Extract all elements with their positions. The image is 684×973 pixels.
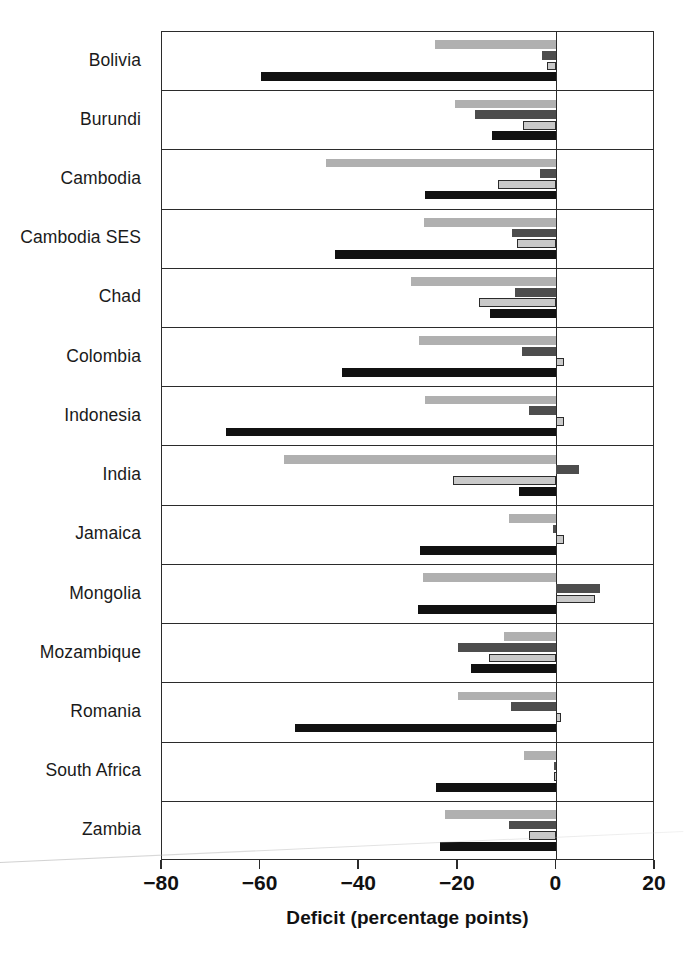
bar-series-3: [547, 62, 557, 71]
bar-series-4: [440, 842, 557, 851]
bar-series-1: [455, 100, 556, 109]
bar-series-3: [529, 831, 556, 840]
x-tick-label: −80: [131, 872, 191, 893]
x-tick: [357, 860, 359, 869]
category-label-row: Zambia: [0, 821, 151, 839]
bar-series-2: [554, 762, 557, 771]
bar-series-2: [475, 110, 556, 119]
bar-series-2: [540, 169, 557, 178]
bar-series-4: [418, 605, 556, 614]
x-tick: [259, 860, 261, 869]
bar-series-3: [479, 298, 557, 307]
row-band: [162, 624, 653, 683]
bar-series-1: [524, 751, 556, 760]
category-label-row: South Africa: [0, 762, 151, 780]
bar-series-4: [420, 546, 556, 555]
bar-series-2: [529, 406, 556, 415]
bar-series-2: [458, 643, 557, 652]
category-label-row: Bolivia: [0, 52, 151, 70]
bar-series-3: [489, 654, 556, 663]
category-label: Cambodia: [0, 170, 151, 188]
bar-series-4: [295, 724, 556, 733]
bar-series-2: [511, 702, 557, 711]
category-label-row: Romania: [0, 703, 151, 721]
row-band: [162, 802, 653, 861]
bar-series-4: [425, 191, 556, 200]
row-band: [162, 269, 653, 328]
category-label-row: India: [0, 466, 151, 484]
bar-series-1: [509, 514, 557, 523]
bar-series-1: [284, 455, 556, 464]
bar-series-2: [556, 465, 579, 474]
x-tick: [653, 860, 655, 869]
row-band: [162, 743, 653, 802]
bar-series-2: [522, 347, 556, 356]
bar-series-4: [490, 309, 556, 318]
category-label-row: Cambodia SES: [0, 229, 151, 247]
bar-series-2: [542, 51, 557, 60]
bar-series-4: [342, 368, 556, 377]
row-band: [162, 32, 653, 91]
bar-series-1: [425, 396, 556, 405]
category-label: Zambia: [0, 821, 151, 839]
category-label-row: Chad: [0, 288, 151, 306]
bar-series-4: [471, 664, 557, 673]
bar-series-4: [436, 783, 557, 792]
row-band: [162, 91, 653, 150]
x-tick: [160, 860, 162, 869]
bar-series-3: [523, 121, 557, 130]
bar-series-3: [498, 180, 556, 189]
bar-series-3: [554, 772, 557, 781]
bar-series-3: [453, 476, 557, 485]
category-label-row: Indonesia: [0, 407, 151, 425]
bar-series-2: [553, 525, 556, 534]
bar-series-3: [556, 358, 563, 367]
category-label: Mozambique: [0, 644, 151, 662]
category-label-row: Cambodia: [0, 170, 151, 188]
x-axis-title: Deficit (percentage points): [161, 907, 654, 929]
category-label-row: Burundi: [0, 111, 151, 129]
category-label-row: Jamaica: [0, 525, 151, 543]
x-tick-label: 20: [624, 872, 684, 893]
bar-series-1: [435, 40, 557, 49]
bar-series-4: [519, 487, 556, 496]
bar-series-2: [515, 288, 556, 297]
bar-series-3: [556, 535, 563, 544]
category-label: India: [0, 466, 151, 484]
category-label-row: Mongolia: [0, 585, 151, 603]
x-tick: [555, 860, 557, 869]
bar-series-1: [424, 218, 556, 227]
bar-series-4: [492, 131, 556, 140]
category-label: Chad: [0, 288, 151, 306]
bar-series-1: [326, 159, 556, 168]
bar-series-2: [512, 229, 557, 238]
category-label: South Africa: [0, 762, 151, 780]
x-tick-label: −40: [328, 872, 388, 893]
row-band: [162, 683, 653, 742]
bar-series-2: [556, 584, 599, 593]
row-band: [162, 328, 653, 387]
bar-series-1: [419, 336, 556, 345]
x-tick-label: −60: [230, 872, 290, 893]
row-band: [162, 387, 653, 446]
bar-series-4: [335, 250, 557, 259]
bar-series-1: [445, 810, 556, 819]
category-label: Colombia: [0, 348, 151, 366]
category-label: Jamaica: [0, 525, 151, 543]
row-band: [162, 210, 653, 269]
bar-series-3: [517, 239, 556, 248]
bar-series-3: [556, 417, 563, 426]
row-band: [162, 506, 653, 565]
category-label: Cambodia SES: [0, 229, 151, 247]
bar-series-4: [226, 428, 556, 437]
category-label: Mongolia: [0, 585, 151, 603]
category-label: Burundi: [0, 111, 151, 129]
bar-series-1: [458, 692, 557, 701]
zero-axis-line: [556, 32, 558, 859]
bar-series-1: [504, 632, 556, 641]
bar-series-3: [556, 595, 594, 604]
category-label: Bolivia: [0, 52, 151, 70]
category-label: Romania: [0, 703, 151, 721]
x-tick-label: 0: [525, 872, 585, 893]
bar-series-2: [509, 821, 557, 830]
